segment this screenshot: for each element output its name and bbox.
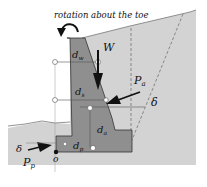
label-toe: o: [53, 154, 59, 164]
label-delta-active: δ: [151, 96, 158, 109]
caption-rotation: rotation about the toe: [54, 10, 149, 20]
point-ds-left: [53, 98, 58, 103]
point-pa: [104, 98, 108, 102]
rotation-arrow-head: [57, 28, 66, 37]
retaining-wall-diagram: rotation about the toe W dw ds Pa δ da d…: [0, 0, 207, 187]
front-clear-area: [8, 60, 70, 126]
point-base: [90, 145, 95, 150]
label-w: W: [103, 41, 116, 54]
point-dw-left: [53, 60, 58, 65]
point-da: [88, 106, 93, 111]
point-dp-small: [64, 143, 66, 145]
label-delta-passive: δ: [16, 143, 22, 154]
